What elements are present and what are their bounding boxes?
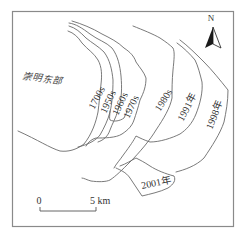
north-arrow: N	[205, 13, 221, 48]
scale-bar: 0 5 km	[37, 195, 111, 211]
scale-start-label: 0	[37, 195, 42, 206]
label-1991: 1991年	[174, 91, 199, 123]
north-arrow-light-half-icon	[213, 27, 221, 48]
shoreline-1700s	[18, 31, 102, 151]
map-canvas: 崇明东部 1700s 1950s 1960s 1970s 1980s 1991年…	[0, 0, 243, 235]
north-arrow-dark-half-icon	[205, 27, 213, 48]
shoreline-1970s	[72, 21, 146, 146]
scale-bar-line	[40, 207, 96, 211]
place-label: 崇明东部	[22, 70, 64, 87]
label-1998: 1998年	[203, 98, 225, 130]
north-label: N	[208, 13, 215, 23]
scale-end-label: 5 km	[90, 195, 111, 206]
